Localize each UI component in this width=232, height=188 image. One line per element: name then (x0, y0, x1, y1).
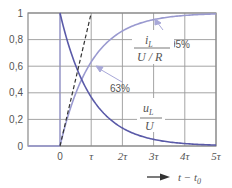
y-tick-label: 0,6 (9, 61, 23, 72)
x-axis-tick-labels: 0τ2τ3τ4τ5τ (57, 150, 222, 162)
x-tick-label: 0 (57, 151, 63, 162)
y-tick-label: 0 (17, 141, 23, 152)
x-tick-label: τ (89, 150, 94, 162)
y-axis-tick-labels: 00,20,40,60,81 (9, 8, 23, 152)
x-tick-label: 5τ (211, 150, 222, 162)
time-axis-arrow: t − t0 (147, 171, 201, 186)
annotation-63-percent: 63% (110, 83, 130, 94)
y-tick-label: 0,8 (9, 34, 23, 45)
y-tick-label: 0,4 (9, 87, 23, 98)
x-tick-label: 4τ (180, 150, 191, 162)
svg-text:t − t0: t − t0 (178, 171, 201, 186)
svg-text:U: U (145, 119, 155, 133)
chart: 00,20,40,60,81 0τ2τ3τ4τ5τ 63% 95% iL U /… (0, 0, 232, 188)
grid (28, 13, 216, 146)
y-tick-label: 1 (17, 8, 23, 19)
svg-text:U / R: U / R (137, 50, 163, 64)
x-tick-label: 2τ (118, 150, 129, 162)
series-label-current: iL U / R (132, 30, 174, 64)
series-label-voltage: uL U (137, 98, 165, 133)
x-tick-label: 3τ (148, 150, 160, 162)
y-tick-label: 0,2 (9, 114, 23, 125)
